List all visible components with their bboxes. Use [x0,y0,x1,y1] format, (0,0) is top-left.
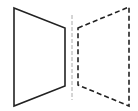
original-quadrilateral [14,8,65,106]
reflection-diagram [0,0,138,111]
reflected-quadrilateral [78,7,129,106]
